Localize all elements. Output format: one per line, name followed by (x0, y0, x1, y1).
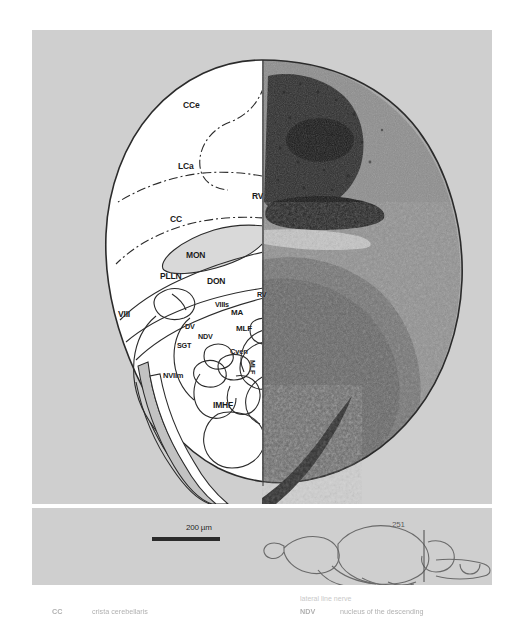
legend-cut-text: nucleus of the lateral line nerve (300, 596, 515, 606)
section-label-viiis: VIIIs (215, 301, 229, 308)
legend-abbr: NDV (300, 606, 326, 617)
scale-bar-label: 200 µm (186, 524, 212, 532)
legend-abbr: CC (52, 606, 78, 617)
legend-column-left: CCcrista cerebellaris (52, 606, 148, 617)
inset-section-number: 251 (392, 521, 405, 529)
section-label-ma: MA (231, 309, 243, 317)
section-label-ndv: NDV (198, 333, 213, 340)
brain-section-panel: CCeLCaRVCCMONPLLNDONVIIIVIIIsRVMAMLFDVND… (32, 30, 492, 504)
histology-photo-half (257, 30, 492, 504)
section-label-rv2: RV (257, 291, 266, 298)
brain-section-drawing (32, 30, 492, 504)
legend-term: nucleus of the descending (340, 606, 424, 617)
legend-row: CCcrista cerebellaris (52, 606, 148, 617)
section-label-mlf2: MLF (249, 360, 256, 374)
inset-brain-diagram (32, 508, 492, 585)
section-label-cc: CC (170, 215, 182, 224)
section-label-mlf1: MLF (236, 325, 252, 333)
legend-column-right: NDVnucleus of the descending (300, 606, 424, 617)
section-label-nviim: NVIIm (163, 372, 183, 380)
section-label-don: DON (207, 277, 225, 286)
section-label-lca: LCa (178, 162, 193, 171)
scale-and-inset-panel: 200 µm 251 (32, 508, 492, 585)
schematic-half (32, 30, 264, 504)
section-label-imhf: IMHF (213, 401, 233, 410)
section-label-plln: PLLN (160, 272, 181, 281)
section-label-sgt: SGT (177, 342, 191, 349)
figure-root: CCeLCaRVCCMONPLLNDONVIIIVIIIsRVMAMLFDVND… (0, 0, 520, 631)
abbreviation-legend: nucleus of the lateral line nerve CCcris… (0, 596, 520, 631)
section-label-cce: CCe (183, 101, 199, 110)
section-label-cven: Cven (230, 348, 248, 356)
section-label-dv: DV (185, 323, 195, 330)
section-label-rv1: RV (252, 192, 263, 201)
section-label-viii: VIII (118, 310, 130, 319)
section-label-mon: MON (186, 251, 205, 260)
scale-bar-rule (152, 537, 220, 541)
legend-row: NDVnucleus of the descending (300, 606, 424, 617)
legend-term: crista cerebellaris (92, 606, 148, 617)
